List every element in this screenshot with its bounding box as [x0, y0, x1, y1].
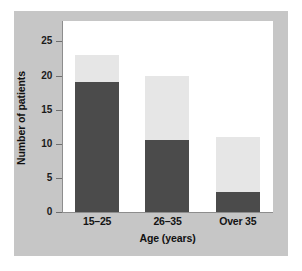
bar-segment-dark[interactable]	[216, 192, 260, 212]
y-axis-tick	[56, 76, 62, 77]
bar-stack[interactable]	[216, 137, 260, 212]
y-axis-line	[62, 21, 63, 213]
x-axis-line	[62, 212, 273, 213]
y-axis-tick-label: 10	[36, 138, 52, 149]
y-axis-tick	[56, 41, 62, 42]
x-axis-tick-label: 26–35	[128, 215, 208, 227]
y-axis-tick	[56, 178, 62, 179]
bar-segment-light[interactable]	[216, 137, 260, 192]
bar-segment-light[interactable]	[75, 55, 119, 82]
bar-stack[interactable]	[145, 76, 189, 212]
bar-segment-light[interactable]	[145, 76, 189, 141]
y-axis-tick-label: 20	[36, 70, 52, 81]
y-axis-tick-label: 5	[36, 172, 52, 183]
x-axis-tick-label: 15–25	[57, 215, 137, 227]
y-axis-tick	[56, 144, 62, 145]
chart-figure: 0510152025 15–2526–35Over 35 Number of p…	[0, 0, 302, 271]
y-axis-tick	[56, 110, 62, 111]
bar-segment-dark[interactable]	[75, 82, 119, 212]
x-axis-title: Age (years)	[62, 232, 273, 244]
y-axis-tick	[56, 212, 62, 213]
y-axis-tick-label: 25	[36, 35, 52, 46]
bar-segment-dark[interactable]	[145, 140, 189, 212]
bar-stack[interactable]	[75, 55, 119, 212]
y-axis-tick-label: 15	[36, 104, 52, 115]
x-axis-tick-label: Over 35	[198, 215, 278, 227]
y-axis-title: Number of patients	[15, 53, 27, 183]
y-axis-tick-label: 0	[36, 206, 52, 217]
